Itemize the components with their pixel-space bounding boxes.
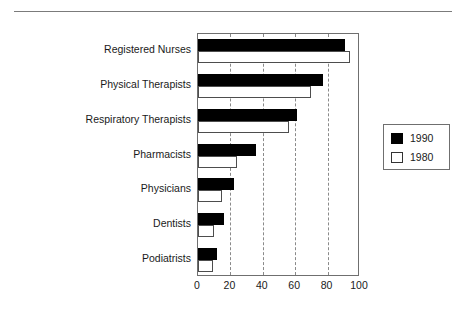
top-divider-rule (14, 11, 452, 12)
y-axis-category-labels: Registered NursesPhysical TherapistsResp… (0, 33, 191, 276)
bar-1990-registered-nurses (198, 39, 345, 51)
legend-swatch-1990 (391, 133, 403, 144)
y-label-physical-therapists: Physical Therapists (5, 79, 191, 90)
legend-entry-1990: 1990 (391, 132, 433, 145)
legend-label-1980: 1980 (410, 152, 433, 163)
x-tick-label-0: 0 (194, 279, 200, 291)
legend-entry-1980: 1980 (391, 151, 433, 164)
bar-1980-dentists (198, 225, 214, 237)
legend-label-1990: 1990 (410, 133, 433, 144)
x-tick-label-80: 80 (321, 279, 333, 291)
bar-1980-physicians (198, 190, 222, 202)
chart-legend: 1990 1980 (383, 124, 450, 170)
bar-1990-physicians (198, 178, 234, 190)
y-label-podiatrists: Podiatrists (5, 253, 191, 264)
y-label-registered-nurses: Registered Nurses (5, 44, 191, 55)
y-label-dentists: Dentists (5, 218, 191, 229)
gridline-x-60 (295, 34, 296, 275)
legend-swatch-1980 (391, 152, 403, 163)
gridline-x-40 (263, 34, 264, 275)
bar-1990-physical-therapists (198, 74, 323, 86)
x-tick-label-40: 40 (256, 279, 268, 291)
bar-1990-respiratory-therapists (198, 109, 297, 121)
bar-1980-respiratory-therapists (198, 121, 289, 133)
bar-1980-physical-therapists (198, 86, 311, 98)
bar-1990-pharmacists (198, 144, 256, 156)
x-tick-label-60: 60 (288, 279, 300, 291)
bar-1980-pharmacists (198, 156, 237, 168)
y-label-physicians: Physicians (5, 183, 191, 194)
y-label-pharmacists: Pharmacists (5, 149, 191, 160)
x-tick-label-100: 100 (350, 279, 368, 291)
bar-1980-registered-nurses (198, 51, 350, 63)
bar-1990-dentists (198, 213, 224, 225)
x-tick-label-20: 20 (224, 279, 236, 291)
bar-1980-podiatrists (198, 260, 213, 272)
bar-1990-podiatrists (198, 248, 217, 260)
plot-area (197, 33, 359, 276)
y-label-respiratory-therapists: Respiratory Therapists (5, 114, 191, 125)
chart-figure: Registered NursesPhysical TherapistsResp… (0, 0, 465, 319)
x-axis-tick-labels: 020406080100 (197, 279, 359, 295)
gridline-x-80 (328, 34, 329, 275)
